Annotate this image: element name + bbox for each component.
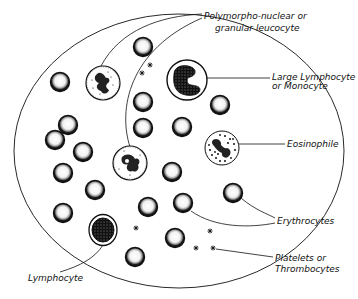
blood-cell-diagram: Polymorpho-nuclear or granular leucocyte… bbox=[0, 0, 358, 299]
polymorph-cell-center bbox=[113, 146, 147, 180]
lymphocyte-cell bbox=[89, 215, 117, 246]
label-erythrocytes: Erythrocytes bbox=[277, 216, 334, 226]
label-lymphocyte: Lymphocyte bbox=[28, 273, 84, 283]
label-eosinophile: Eosinophile bbox=[287, 139, 339, 149]
polymorph-cell-upper bbox=[86, 66, 120, 100]
label-monocyte-line2: or Monocyte bbox=[272, 81, 328, 91]
monocyte-cell bbox=[167, 60, 207, 100]
label-platelets-line2: Thrombocytes bbox=[275, 264, 340, 274]
label-platelets-line1: Platelets or bbox=[275, 253, 327, 263]
label-polymorph-line2: granular leucocyte bbox=[215, 23, 300, 33]
label-polymorph-line1: Polymorpho-nuclear or bbox=[204, 11, 308, 21]
eosinophile-cell bbox=[205, 131, 239, 165]
